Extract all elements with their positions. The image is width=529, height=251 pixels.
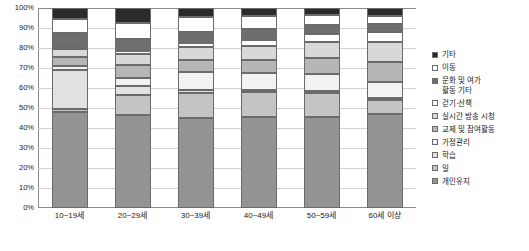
bar-segment[interactable] xyxy=(178,90,214,93)
bar-segment[interactable] xyxy=(241,90,277,92)
legend-item[interactable]: 이동 xyxy=(432,63,527,73)
bar-segment[interactable] xyxy=(241,73,277,90)
bar-segment[interactable] xyxy=(115,65,151,78)
y-axis-tick-label: 20% xyxy=(19,164,34,172)
bar-segment[interactable] xyxy=(52,33,88,47)
legend-label: 일 xyxy=(442,164,449,174)
bar-segment[interactable] xyxy=(367,42,403,62)
bar-segment[interactable] xyxy=(115,51,151,54)
bar-segment[interactable] xyxy=(115,78,151,86)
legend-item[interactable]: 문화 및 여가 활동 기타 xyxy=(432,76,527,95)
bar-segment[interactable] xyxy=(304,74,340,91)
bar-segment[interactable] xyxy=(241,40,277,46)
bar-segment[interactable] xyxy=(52,57,88,66)
legend-item[interactable]: 기타 xyxy=(432,50,527,60)
bar-segment[interactable] xyxy=(367,82,403,98)
legend-item[interactable]: 교제 및 참여활동 xyxy=(432,125,527,135)
bar-segment[interactable] xyxy=(367,16,403,24)
bar-segment[interactable] xyxy=(367,114,403,208)
legend-swatch-icon xyxy=(432,126,438,132)
stacked-bar[interactable] xyxy=(241,8,277,208)
chart-root: 0%10%20%30%40%50%60%70%80%90%100% 10~19세… xyxy=(0,0,529,251)
bar-segment[interactable] xyxy=(367,24,403,32)
bar-group[interactable] xyxy=(241,8,277,208)
bar-segment[interactable] xyxy=(304,34,340,42)
legend-label: 가정관리 xyxy=(442,138,470,148)
bar-segment[interactable] xyxy=(241,46,277,60)
legend-item[interactable]: 학습 xyxy=(432,151,527,161)
bar-segment[interactable] xyxy=(115,86,151,95)
bar-segment[interactable] xyxy=(367,62,403,82)
bar-segment[interactable] xyxy=(52,19,88,33)
bar-group[interactable] xyxy=(178,8,214,208)
bar-segment[interactable] xyxy=(52,8,88,19)
bar-segment[interactable] xyxy=(304,91,340,93)
legend-item[interactable]: 가정관리 xyxy=(432,138,527,148)
stacked-bar[interactable] xyxy=(178,8,214,208)
y-axis-tick-label: 0% xyxy=(23,204,34,212)
bar-segment[interactable] xyxy=(304,93,340,117)
bar-segment[interactable] xyxy=(367,32,403,42)
y-axis-tick-label: 80% xyxy=(19,44,34,52)
stacked-bar[interactable] xyxy=(304,8,340,208)
legend-label: 걷기·산책 xyxy=(442,99,473,109)
bar-segment[interactable] xyxy=(52,109,88,112)
legend-item[interactable]: 일 xyxy=(432,164,527,174)
bar-segment[interactable] xyxy=(115,54,151,65)
bar-segment[interactable] xyxy=(304,15,340,25)
bar-segment[interactable] xyxy=(178,17,214,32)
bar-segment[interactable] xyxy=(304,42,340,58)
bar-group[interactable] xyxy=(367,8,403,208)
bar-segment[interactable] xyxy=(178,32,214,43)
bar-segment[interactable] xyxy=(115,115,151,208)
bar-segment[interactable] xyxy=(115,95,151,115)
bar-segment[interactable] xyxy=(241,29,277,40)
bar-group[interactable] xyxy=(115,8,151,208)
bar-group[interactable] xyxy=(52,8,88,208)
bar-segment[interactable] xyxy=(178,8,214,17)
bar-segment[interactable] xyxy=(241,8,277,16)
bar-segment[interactable] xyxy=(178,47,214,60)
y-axis-tick-label: 40% xyxy=(19,124,34,132)
bar-segment[interactable] xyxy=(178,118,214,208)
bar-segment[interactable] xyxy=(241,92,277,117)
bar-segment[interactable] xyxy=(115,23,151,39)
y-axis-tick-label: 90% xyxy=(19,24,34,32)
legend-swatch-icon xyxy=(432,178,438,184)
bar-segment[interactable] xyxy=(241,16,277,29)
legend-label: 실시간 방송 시청 xyxy=(442,112,495,122)
bar-segment[interactable] xyxy=(304,25,340,34)
legend-item[interactable]: 걷기·산책 xyxy=(432,99,527,109)
bar-segment[interactable] xyxy=(52,47,88,49)
stacked-bar[interactable] xyxy=(115,8,151,208)
legend-swatch-icon xyxy=(432,52,438,58)
bar-segment[interactable] xyxy=(367,98,403,100)
bar-segment[interactable] xyxy=(115,8,151,23)
legend-label: 기타 xyxy=(442,50,456,60)
bar-segment[interactable] xyxy=(52,66,88,70)
x-axis-tick-label: 50~59세 xyxy=(290,210,353,221)
bar-segment[interactable] xyxy=(304,117,340,208)
bar-group[interactable] xyxy=(304,8,340,208)
y-axis-labels: 0%10%20%30%40%50%60%70%80%90%100% xyxy=(0,8,34,208)
stacked-bar[interactable] xyxy=(52,8,88,208)
legend-swatch-icon xyxy=(432,65,438,71)
bar-segment[interactable] xyxy=(115,39,151,51)
legend-item[interactable]: 개인유지 xyxy=(432,177,527,187)
bar-segment[interactable] xyxy=(241,117,277,208)
legend-item[interactable]: 실시간 방송 시청 xyxy=(432,112,527,122)
bar-segment[interactable] xyxy=(178,93,214,118)
bar-segment[interactable] xyxy=(178,60,214,72)
bar-segment[interactable] xyxy=(52,70,88,109)
bar-segment[interactable] xyxy=(52,49,88,57)
bar-segment[interactable] xyxy=(178,43,214,47)
bar-segment[interactable] xyxy=(178,72,214,90)
bar-segment[interactable] xyxy=(304,58,340,74)
plot-area xyxy=(38,8,416,208)
bar-segment[interactable] xyxy=(367,100,403,114)
bar-segment[interactable] xyxy=(241,60,277,73)
bar-segment[interactable] xyxy=(367,8,403,16)
bar-segment[interactable] xyxy=(52,112,88,208)
stacked-bar[interactable] xyxy=(367,8,403,208)
bar-segment[interactable] xyxy=(304,8,340,15)
